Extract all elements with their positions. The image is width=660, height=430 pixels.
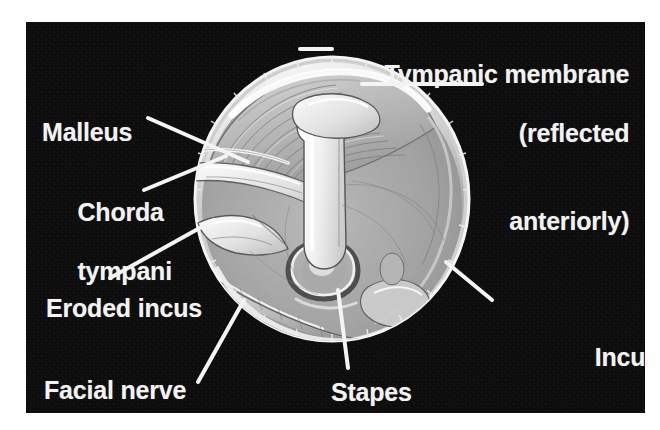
label-stapes: Stapes (331, 378, 412, 408)
figure-root: Tympanic membrane (reflected anteriorly)… (0, 0, 660, 430)
label-chorda-tympani-line1: Chorda (77, 198, 163, 226)
label-tympanic-membrane-line1: Tympanic membrane (384, 60, 629, 88)
illustration-panel: Tympanic membrane (reflected anteriorly)… (26, 22, 645, 413)
label-chorda-tympani-line2: tympani (77, 257, 171, 285)
label-eroded-incus: Eroded incus (46, 294, 202, 324)
label-facial-nerve: Facial nerve (44, 376, 186, 406)
label-malleus: Malleus (42, 118, 132, 148)
label-tympanic-membrane-line2: (reflected (344, 119, 629, 149)
label-tympanic-membrane: Tympanic membrane (reflected anteriorly) (344, 30, 629, 296)
label-incus-replacement-prosthesis: Incus replacement prosthesis (484, 284, 645, 413)
label-incus-replacement-prosthesis-line1: Incus (484, 343, 645, 373)
label-tympanic-membrane-line3: anteriorly) (344, 207, 629, 237)
